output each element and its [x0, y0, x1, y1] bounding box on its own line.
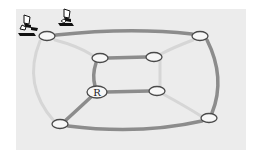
link-inner-br-outer-br [163, 94, 201, 116]
node-inner-tl[interactable] [92, 54, 108, 63]
node-outer-tl[interactable] [39, 32, 55, 41]
link-outer-tr-outer-br [207, 40, 218, 113]
link-outer-tr-inner-tr [161, 40, 193, 54]
link-inner-tl-inner-tr [108, 57, 146, 58]
link-inner-tl-inner-bl [94, 63, 96, 86]
link-inner-bl-outer-bl [66, 97, 91, 120]
link-inner-bl-inner-br [106, 91, 149, 92]
network-diagram: R [0, 0, 259, 158]
node-outer-tr[interactable] [192, 32, 208, 41]
node-outer-bl[interactable] [52, 120, 68, 129]
inactive-links [34, 40, 201, 121]
user-at-computer-icon [18, 15, 38, 36]
link-outer-br-outer-bl [68, 121, 202, 130]
root-label: R [93, 87, 101, 98]
user-at-computer-icon [58, 9, 74, 26]
node-outer-br[interactable] [201, 114, 217, 123]
link-outer-tl-inner-tl [55, 40, 92, 55]
nodes [39, 32, 217, 129]
active-links [56, 31, 218, 130]
node-inner-br[interactable] [149, 87, 165, 96]
node-inner-tr[interactable] [146, 53, 162, 62]
link-outer-tl-outer-tr [56, 31, 192, 35]
link-outer-tl-outer-bl [34, 41, 54, 121]
